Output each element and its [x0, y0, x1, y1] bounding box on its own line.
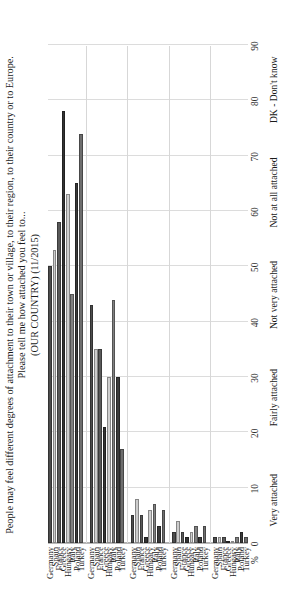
bar-dk-don-t-know-germany — [213, 537, 216, 543]
x-tick-label-20: 20 — [250, 429, 260, 438]
group-label-very-attached: Very attached — [268, 474, 279, 526]
bar-row: Turkey — [120, 46, 123, 543]
bar-row: France — [57, 46, 60, 543]
bar-row: France — [98, 46, 101, 543]
bar-row: Germany — [131, 46, 134, 543]
bar-dk-don-t-know-poland — [240, 532, 243, 543]
chart-page: People may feel different degrees of att… — [0, 0, 306, 590]
bar-row: Germany — [90, 46, 93, 543]
bar-not-very-attached-poland — [157, 526, 160, 543]
bar-row: Spain — [135, 46, 138, 543]
x-tick-label-90: 90 — [250, 41, 260, 50]
group-separator — [127, 46, 128, 543]
bar-not-very-attached-turkey — [162, 510, 165, 543]
category-group-labels: Very attachedFairly attachedNot very att… — [268, 46, 292, 544]
bar-row: Italy — [112, 46, 115, 543]
bar-dk-don-t-know-spain — [218, 537, 221, 543]
rotated-figure-canvas: People may feel different degrees of att… — [0, 0, 306, 590]
bar-row: Spain — [218, 46, 221, 543]
bar-row: Greece — [185, 46, 188, 543]
bar-row: France — [140, 46, 143, 543]
bar-dk-don-t-know-turkey — [244, 537, 247, 543]
x-axis-ticks: 0102030405060708090 — [250, 46, 268, 544]
bar-row: Greece — [144, 46, 147, 543]
x-tick-label-0: 0 — [250, 542, 260, 547]
group-label-not-at-all-attached: Not at all attached — [268, 157, 279, 227]
bar-row: Germany — [172, 46, 175, 543]
bar-fairly-attached-italy — [112, 300, 115, 543]
bar-not-very-attached-hungary — [148, 510, 151, 543]
bar-not-at-all-attached-greece — [185, 537, 188, 543]
bar-dk-don-t-know-greece — [226, 541, 229, 543]
bar-not-at-all-attached-italy — [194, 526, 197, 543]
bar-row: Hungary — [107, 46, 110, 543]
bar-row: Greece — [103, 46, 106, 543]
chart-subtitle: (OUR COUNTRY) (11/2015) — [29, 0, 41, 590]
chart-title-block: People may feel different degrees of att… — [4, 0, 41, 590]
bar-not-very-attached-spain — [135, 499, 138, 543]
bar-dk-don-t-know-hungary — [231, 541, 234, 543]
bar-very-attached-greece — [62, 111, 65, 543]
bar-fairly-attached-greece — [103, 427, 106, 543]
bar-dk-don-t-know-italy — [235, 537, 238, 543]
bar-row: Germany — [213, 46, 216, 543]
bar-row: France — [181, 46, 184, 543]
bar-not-at-all-attached-poland — [198, 537, 201, 543]
bar-very-attached-germany — [48, 266, 51, 543]
bar-very-attached-italy — [70, 294, 73, 543]
bar-row: Italy — [153, 46, 156, 543]
bar-label-turkey: Turkey — [117, 547, 127, 572]
x-tick-label-40: 40 — [250, 318, 260, 327]
bar-row: Spain — [94, 46, 97, 543]
bar-row: Hungary — [148, 46, 151, 543]
plot-area: GermanySpainFranceGreeceHungaryItalyPola… — [48, 46, 248, 544]
group-separator — [86, 46, 87, 543]
bar-row: Hungary — [231, 46, 234, 543]
bar-row: Turkey — [203, 46, 206, 543]
bar-not-at-all-attached-spain — [176, 521, 179, 543]
bar-very-attached-spain — [53, 250, 56, 543]
bar-row: Greece — [62, 46, 65, 543]
x-tick-label-30: 30 — [250, 373, 260, 382]
bar-not-very-attached-germany — [131, 515, 134, 543]
bar-not-at-all-attached-germany — [172, 532, 175, 543]
bar-row: Turkey — [244, 46, 247, 543]
x-tick-label-50: 50 — [250, 263, 260, 272]
bar-fairly-attached-poland — [116, 377, 119, 543]
bar-fairly-attached-germany — [90, 305, 93, 543]
bar-very-attached-hungary — [66, 194, 69, 543]
x-tick-label-60: 60 — [250, 207, 260, 216]
bar-fairly-attached-france — [98, 349, 101, 543]
bar-row: Greece — [226, 46, 229, 543]
group-label-not-very-attached: Not very attached — [268, 261, 279, 329]
bar-not-at-all-attached-turkey — [203, 526, 206, 543]
bar-very-attached-turkey — [79, 134, 82, 543]
group-label-fairly-attached: Fairly attached — [268, 369, 279, 426]
x-tick-label-80: 80 — [250, 97, 260, 106]
bar-row: Germany — [48, 46, 51, 543]
bar-row: Spain — [176, 46, 179, 543]
bar-row: Poland — [75, 46, 78, 543]
bar-very-attached-france — [57, 222, 60, 543]
bar-row: Italy — [70, 46, 73, 543]
bar-label-turkey: Turkey — [76, 547, 86, 572]
bar-very-attached-poland — [75, 183, 78, 543]
bar-label-turkey: Turkey — [200, 547, 210, 572]
chart-title-line-1: People may feel different degrees of att… — [4, 0, 16, 590]
bar-label-turkey: Turkey — [158, 547, 168, 572]
bar-row: Poland — [157, 46, 160, 543]
bar-row: Turkey — [162, 46, 165, 543]
bar-not-very-attached-france — [140, 515, 143, 543]
bar-not-very-attached-greece — [144, 537, 147, 543]
gridline-90 — [48, 44, 248, 45]
bar-not-at-all-attached-france — [181, 532, 184, 543]
bar-row: Poland — [198, 46, 201, 543]
group-label-dk-don-t-know: DK - Don't know — [268, 57, 279, 123]
bar-series: GermanySpainFranceGreeceHungaryItalyPola… — [48, 46, 248, 543]
group-separator — [169, 46, 170, 543]
bar-row: Poland — [116, 46, 119, 543]
bar-row: Poland — [240, 46, 243, 543]
bar-row: Italy — [194, 46, 197, 543]
figure: People may feel different degrees of att… — [0, 0, 306, 590]
bar-dk-don-t-know-france — [222, 537, 225, 543]
